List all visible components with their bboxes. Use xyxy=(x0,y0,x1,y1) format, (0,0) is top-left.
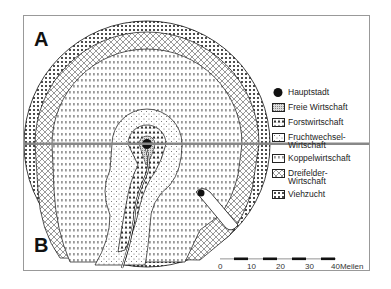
legend-item-koppel: Koppelwirtschaft xyxy=(272,154,372,168)
legend-item-forst: Forstwirtschaft xyxy=(272,118,372,132)
sparse-dot-swatch-icon xyxy=(272,133,285,142)
small-town-icon xyxy=(198,190,205,197)
crosshatch-swatch-icon xyxy=(272,169,285,178)
legend-item-fruchtwechsel: Fruchtwechsel- Wirtschaft xyxy=(272,133,372,153)
legend-item-hauptstadt: Hauptstadt xyxy=(272,88,372,102)
panel-label-b: B xyxy=(34,234,48,257)
legend-item-dreifelder: Dreifelder- Wirtschaft xyxy=(272,169,372,189)
legend-item-freie: Freie Wirtschaft xyxy=(272,103,372,117)
heavy-dot-swatch-icon xyxy=(272,190,285,199)
panel-label-a: A xyxy=(34,28,48,51)
stipple-swatch-icon xyxy=(272,103,285,112)
capital-dot-icon xyxy=(272,88,285,97)
legend: Hauptstadt Freie Wirtschaft Forstwirtsch… xyxy=(272,88,372,205)
legend-item-viehzucht: Viehzucht xyxy=(272,190,372,204)
tree-swatch-icon xyxy=(272,118,285,127)
scale-bar xyxy=(220,258,336,261)
dash-swatch-icon xyxy=(272,154,285,163)
